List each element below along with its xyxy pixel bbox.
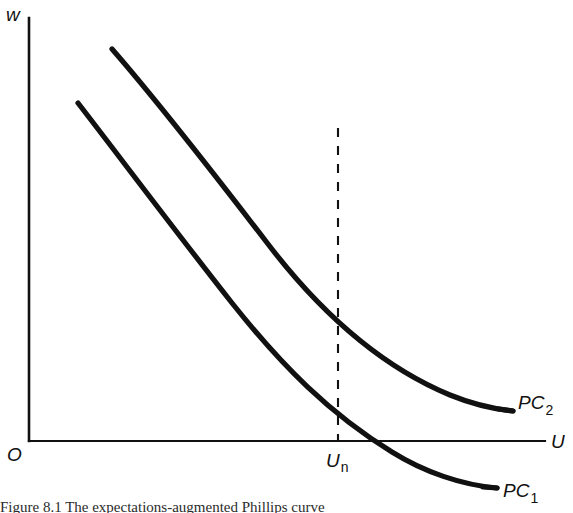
x-axis-label-text: U: [551, 431, 565, 452]
curve-label-pc2: PC2: [518, 392, 553, 418]
pc1-leader-line: [483, 487, 497, 488]
natural-rate-label-subscript: n: [341, 459, 349, 475]
pc2-leader-line: [498, 409, 513, 411]
origin-label-text: O: [7, 444, 22, 465]
y-axis-label-text: w: [6, 4, 21, 25]
natural-rate-label: Un: [326, 450, 349, 475]
origin-label: O: [7, 444, 22, 465]
natural-rate-label-main: U: [326, 450, 340, 471]
x-axis-label: U: [551, 431, 565, 452]
curve-label-pc2-subscript: 2: [545, 402, 553, 418]
curve-pc1: [78, 103, 497, 488]
figure-caption: Figure 8.1 The expectations-augmented Ph…: [0, 499, 573, 513]
curve-label-pc2-main: PC: [518, 392, 545, 413]
curve-label-pc1-main: PC: [503, 480, 530, 501]
y-axis-label: w: [6, 4, 21, 25]
